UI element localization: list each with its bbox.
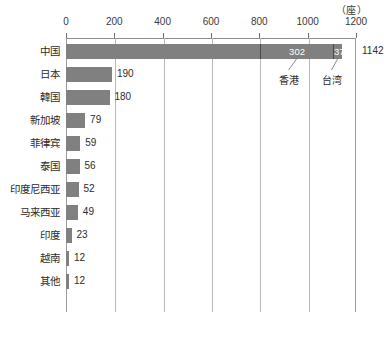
category-label: 新加坡 xyxy=(30,113,60,128)
axis-tick-label: 800 xyxy=(251,16,268,27)
category-label: 韓国 xyxy=(40,90,60,105)
bar-value-label: 56 xyxy=(85,159,96,172)
bar-value-label: 12 xyxy=(74,274,85,287)
axis-tick-label: 1200 xyxy=(345,16,367,27)
bar-value-label: 59 xyxy=(85,136,96,149)
axis-tick-label: 1000 xyxy=(297,16,319,27)
axis-tick xyxy=(356,33,357,38)
bar-value-label: 12 xyxy=(74,251,85,264)
axis-tick-label: 200 xyxy=(106,16,123,27)
bar-value-label: 180 xyxy=(115,90,132,103)
gridline xyxy=(260,38,261,312)
bar xyxy=(66,205,78,220)
bar-value-label: 52 xyxy=(84,182,95,195)
bar xyxy=(66,159,80,174)
axis-tick-label: 400 xyxy=(154,16,171,27)
horizontal-bar-chart: （座） 020040060080010001200 中国302371142日本1… xyxy=(0,0,389,338)
gridline xyxy=(212,38,213,312)
bar xyxy=(66,228,72,243)
category-label: 印度 xyxy=(40,228,60,243)
axis-tick xyxy=(211,33,212,38)
bar-segment-value: 37 xyxy=(334,45,342,58)
category-label: 其他 xyxy=(40,274,60,289)
axis-tick xyxy=(259,33,260,38)
bar-value-label: 190 xyxy=(117,67,134,80)
bar xyxy=(66,182,79,197)
bar-value-label: 79 xyxy=(90,113,101,126)
callout-label: 香港 xyxy=(279,72,299,87)
bar-segment-value: 302 xyxy=(261,45,333,58)
bar-value-label: 49 xyxy=(83,205,94,218)
callout-label: 台湾 xyxy=(322,72,342,87)
gridline xyxy=(309,38,310,312)
category-label: 马来西亚 xyxy=(20,205,60,220)
axis-tick-label: 0 xyxy=(63,16,69,27)
category-label: 印度尼西亚 xyxy=(10,182,60,197)
bar-segment xyxy=(66,44,260,59)
axis-unit-label: （座） xyxy=(336,2,368,17)
category-label: 越南 xyxy=(40,251,60,266)
bar xyxy=(66,90,110,105)
axis-tick xyxy=(114,33,115,38)
category-label: 泰国 xyxy=(40,159,60,174)
bar-segment: 37 xyxy=(333,44,342,59)
bar-total-label: 1142 xyxy=(362,44,384,57)
category-label: 中国 xyxy=(40,44,60,59)
axis-tick-label: 600 xyxy=(203,16,220,27)
bar xyxy=(66,251,69,266)
category-label: 日本 xyxy=(40,67,60,82)
category-label: 菲律宾 xyxy=(30,136,60,151)
axis-tick xyxy=(66,33,67,38)
bar-value-label: 23 xyxy=(77,228,88,241)
bar xyxy=(66,67,112,82)
gridline xyxy=(164,38,165,312)
bar-segment: 302 xyxy=(260,44,333,59)
bar xyxy=(66,136,80,151)
axis-tick xyxy=(308,33,309,38)
axis-tick xyxy=(163,33,164,38)
bar xyxy=(66,274,69,289)
bar xyxy=(66,113,85,128)
